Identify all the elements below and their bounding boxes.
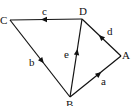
edge-a (70, 56, 121, 97)
edge-label-d: d (107, 26, 113, 37)
edge-b (10, 20, 70, 97)
edge-label-c: c (42, 6, 47, 17)
edge-e (70, 19, 82, 97)
arrow-c-icon (41, 17, 47, 22)
point-label-b: B (66, 99, 73, 106)
edge-label-e: e (64, 49, 69, 60)
point-label-a: A (122, 50, 130, 61)
point-label-d: D (79, 6, 87, 17)
edge-label-a: a (101, 76, 106, 87)
point-label-c: C (0, 15, 7, 26)
edge-label-b: b (29, 57, 35, 68)
